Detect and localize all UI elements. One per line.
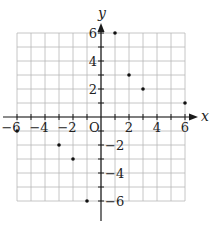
data-point <box>183 101 187 105</box>
x-axis-label: x <box>201 108 209 124</box>
x-tick-label: −2 <box>57 120 76 135</box>
y-axis-arrow <box>98 23 105 32</box>
x-tick-label: 4 <box>153 120 161 135</box>
data-point <box>127 73 131 77</box>
data-point <box>71 157 75 161</box>
data-point <box>57 143 61 147</box>
y-tick-label: −4 <box>105 166 124 181</box>
data-point <box>141 87 145 91</box>
x-axis-arrow <box>189 114 198 121</box>
y-tick-label: −6 <box>105 194 124 209</box>
x-tick-label: 2 <box>125 120 133 135</box>
coordinate-plane: −6−4−2246642−2−4−6 x y O <box>0 0 219 229</box>
y-tick-label: 2 <box>89 82 97 97</box>
x-tick-label: −6 <box>1 120 20 135</box>
y-tick-label: −2 <box>105 138 124 153</box>
x-tick-label: −4 <box>29 120 48 135</box>
y-axis-label: y <box>97 5 107 21</box>
y-tick-label: 6 <box>89 26 97 41</box>
data-point <box>85 199 89 203</box>
x-tick-label: 6 <box>181 120 189 135</box>
y-tick-label: 4 <box>89 54 97 69</box>
data-point <box>15 129 19 133</box>
data-point <box>113 31 117 35</box>
origin-label: O <box>89 120 100 135</box>
